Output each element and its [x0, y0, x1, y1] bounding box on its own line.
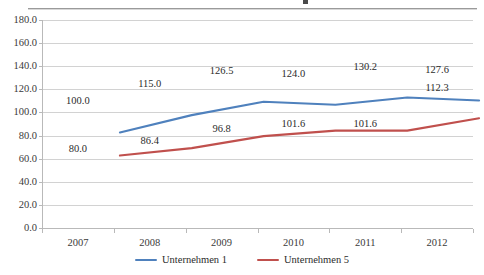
x-axis-tick: [114, 229, 115, 233]
legend-item-series-1[interactable]: Unternehmen 1: [135, 254, 227, 266]
y-axis-tick: [39, 159, 42, 160]
x-axis-category-label: 2011: [329, 237, 401, 249]
data-point-label: 115.0: [138, 78, 161, 89]
data-point-label: 127.6: [425, 64, 449, 75]
y-axis-tick-label: 160.0: [0, 38, 37, 48]
x-axis-category-label: 2007: [42, 237, 114, 249]
y-axis-tick: [39, 20, 42, 21]
y-axis-tick: [39, 136, 42, 137]
line-chart: 0.020.040.060.080.0100.0120.0140.0160.01…: [0, 0, 484, 275]
y-axis-tick-label: 60.0: [0, 154, 37, 164]
y-axis-tick: [39, 43, 42, 44]
data-point-label: 101.6: [282, 118, 306, 129]
data-point-label: 96.8: [212, 123, 230, 134]
legend-line-swatch-icon: [257, 259, 279, 261]
cropped-title-glyph: [303, 0, 308, 4]
data-point-label: 130.2: [353, 61, 377, 72]
x-axis-tick: [186, 229, 187, 233]
legend-line-swatch-icon: [135, 259, 157, 261]
y-axis-tick-label: 80.0: [0, 131, 37, 141]
y-axis-tick: [39, 89, 42, 90]
y-axis-tick-label: 20.0: [0, 200, 37, 210]
x-axis-tick: [473, 229, 474, 233]
y-axis-tick: [39, 112, 42, 113]
x-axis-category-label: 2010: [258, 237, 330, 249]
data-point-label: 112.3: [425, 82, 448, 93]
legend-item-label: Unternehmen 5: [284, 254, 349, 266]
y-axis-tick-label: 100.0: [0, 107, 37, 117]
legend-item-label: Unternehmen 1: [162, 254, 227, 266]
data-point-label: 100.0: [66, 95, 90, 106]
x-axis-tick: [329, 229, 330, 233]
chart-legend: Unternehmen 1 Unternehmen 5: [0, 254, 484, 266]
x-axis-tick: [258, 229, 259, 233]
x-axis-category-label: 2008: [114, 237, 186, 249]
data-point-label: 101.6: [353, 118, 377, 129]
data-point-label: 124.0: [282, 68, 306, 79]
y-axis-tick: [39, 205, 42, 206]
y-axis-tick-label: 180.0: [0, 15, 37, 25]
gridline: [42, 20, 473, 21]
y-axis-tick-label: 0.0: [0, 223, 37, 233]
x-axis-tick: [42, 229, 43, 233]
data-point-label: 126.5: [210, 65, 234, 76]
data-point-label: 80.0: [69, 143, 87, 154]
y-axis-tick: [39, 182, 42, 183]
y-axis-line: [42, 20, 43, 229]
data-point-label: 86.4: [141, 135, 159, 146]
y-axis-tick: [39, 66, 42, 67]
plot-area: [42, 20, 473, 228]
title-divider-rule-shadow: [28, 9, 477, 10]
x-axis-tick: [401, 229, 402, 233]
y-axis-tick-label: 120.0: [0, 84, 37, 94]
x-axis-category-label: 2012: [401, 237, 473, 249]
legend-item-series-2[interactable]: Unternehmen 5: [257, 254, 349, 266]
y-axis-tick-label: 40.0: [0, 177, 37, 187]
x-axis-category-label: 2009: [186, 237, 258, 249]
y-axis-tick-label: 140.0: [0, 61, 37, 71]
